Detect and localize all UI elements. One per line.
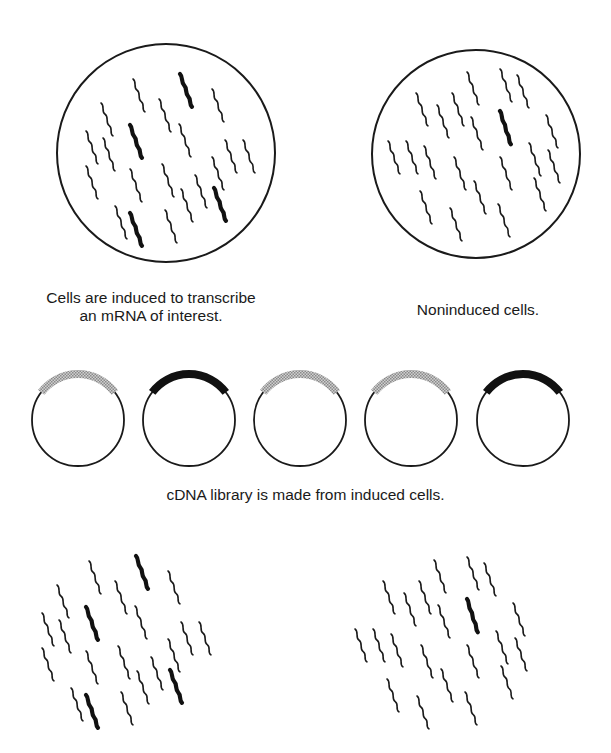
induced-target-mrna — [129, 74, 226, 246]
induced-cells-caption: Cells are induced to transcribe an mRNA … — [30, 289, 272, 325]
noninduced-mrna-population — [354, 557, 528, 729]
induced-cell-dish — [57, 44, 275, 262]
noninduced-cells-caption: Noninduced cells. — [378, 301, 578, 319]
plasmid-5 — [477, 374, 569, 466]
plasmid-1 — [32, 374, 124, 466]
noninduced-mrna-strands — [387, 69, 561, 241]
induced-mrna-strands — [85, 74, 256, 246]
induced-caption-line-2: an mRNA of interest. — [30, 307, 272, 325]
noninduced-cell-dish — [372, 50, 580, 258]
plasmid-3 — [254, 374, 346, 466]
induced-mrna-population — [41, 556, 212, 728]
diagram-canvas — [0, 0, 611, 753]
cdna-library-caption: cDNA library is made from induced cells. — [0, 486, 611, 504]
induced-caption-line-1: Cells are induced to transcribe — [30, 289, 272, 307]
noninduced-target-mrna — [499, 111, 511, 145]
plasmid-2 — [143, 374, 235, 466]
plasmid-4 — [365, 374, 457, 466]
cdna-library-plasmids — [32, 374, 569, 466]
